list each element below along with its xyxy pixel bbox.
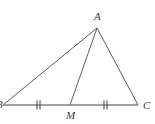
geometry-figure: A B M C	[0, 0, 155, 124]
vertex-label-a: A	[94, 11, 101, 22]
triangle-diagram-svg	[0, 0, 155, 124]
vertex-label-b: B	[0, 99, 3, 110]
segment-ab	[3, 28, 97, 105]
vertex-label-m: M	[66, 110, 75, 121]
segment-ac	[97, 28, 138, 105]
vertex-label-c: C	[143, 100, 150, 111]
